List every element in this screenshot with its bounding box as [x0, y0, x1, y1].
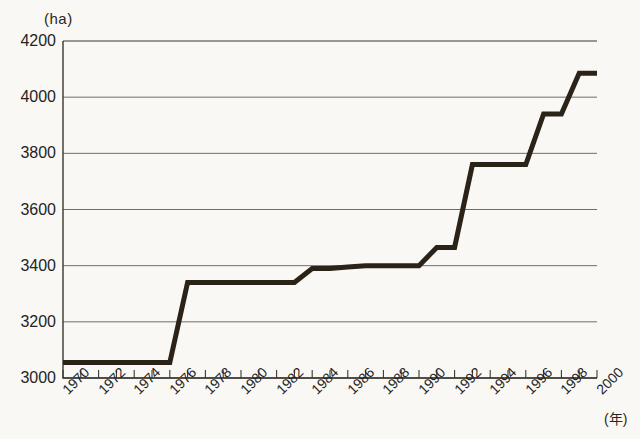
data-series-line [63, 73, 597, 362]
y-tick-label: 3200 [6, 313, 56, 331]
y-tick-label: 4000 [6, 88, 56, 106]
y-tick-label: 3000 [6, 369, 56, 387]
y-tick-label: 3400 [6, 257, 56, 275]
chart-screenshot: (ha) (年) 4200400038003600340032003000 19… [0, 0, 640, 439]
y-axis-unit-label: (ha) [44, 10, 73, 27]
gridlines-group [63, 97, 597, 378]
y-tick-label: 3600 [6, 201, 56, 219]
line-chart-figure: (ha) (年) 4200400038003600340032003000 19… [0, 0, 640, 439]
y-tick-label: 4200 [6, 32, 56, 50]
x-axis-unit-label: (年) [604, 408, 627, 428]
y-tick-label: 3800 [6, 144, 56, 162]
